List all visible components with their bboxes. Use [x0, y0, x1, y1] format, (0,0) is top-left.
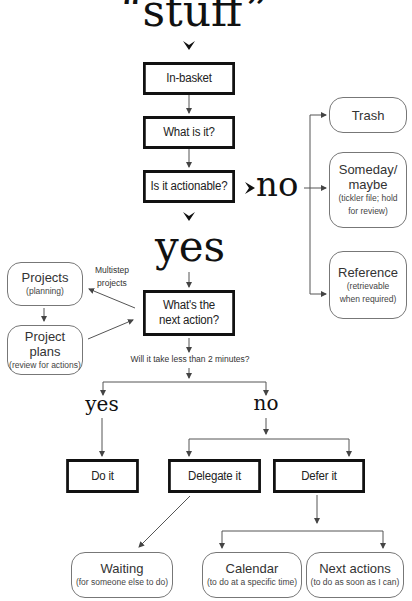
yes-two-min-label: yes [82, 393, 122, 415]
multistep-line-2: projects [92, 277, 132, 290]
delegate-it-box: Delegate it [168, 459, 261, 493]
someday-title-1: Someday/ [339, 162, 398, 177]
do-it-box: Do it [66, 459, 139, 493]
next-actions-box: Next actions (to do as soon as I can) [306, 552, 404, 598]
projects-title: Projects [22, 270, 69, 285]
chevron-down-icon-2 [182, 209, 196, 223]
stuff-title: “stuff” [120, 0, 260, 36]
multistep-label: Multistep projects [92, 264, 132, 290]
projects-box: Projects (planning) [7, 262, 83, 306]
defer-it-label: Defer it [301, 469, 337, 484]
reference-box: Reference (retrievable when required) [329, 251, 407, 319]
project-plans-box: Project plans (review for actions) [7, 325, 83, 375]
someday-note-2: for review) [348, 205, 388, 218]
next-action-box: What's the next action? [143, 290, 235, 336]
next-actions-title: Next actions [319, 561, 391, 576]
next-action-line-1: What's the [163, 298, 215, 313]
in-basket-box: In-basket [143, 62, 235, 95]
calendar-note: (to do at a specific time) [207, 576, 297, 589]
waiting-note: (for someone else to do) [76, 576, 168, 589]
is-actionable-box: Is it actionable? [143, 170, 235, 203]
no-two-min-label: no [246, 392, 286, 414]
someday-title-2: maybe [348, 177, 387, 192]
project-plans-title: Project plans [8, 329, 82, 359]
trash-box: Trash [329, 97, 407, 133]
calendar-title: Calendar [226, 561, 279, 576]
what-is-it-box: What is it? [143, 116, 235, 149]
is-actionable-label: Is it actionable? [151, 179, 228, 194]
delegate-it-label: Delegate it [188, 469, 241, 484]
calendar-box: Calendar (to do at a specific time) [202, 552, 302, 598]
yes-actionable-label: yes [140, 224, 240, 270]
someday-maybe-box: Someday/ maybe (tickler file; hold for r… [329, 152, 407, 228]
waiting-box: Waiting (for someone else to do) [71, 552, 173, 598]
projects-note: (planning) [26, 285, 64, 298]
chevron-down-icon [182, 38, 196, 52]
chevron-right-icon [244, 181, 256, 195]
in-basket-label: In-basket [166, 71, 212, 86]
next-actions-note: (to do as soon as I can) [311, 576, 400, 589]
reference-note-2: when required) [340, 293, 397, 306]
what-is-it-label: What is it? [163, 125, 215, 140]
two-minutes-question: Will it take less than 2 minutes? [100, 354, 280, 364]
do-it-label: Do it [91, 469, 114, 484]
reference-title: Reference [338, 265, 398, 280]
someday-note-1: (tickler file; hold [338, 192, 397, 205]
no-actionable-label: no [256, 164, 298, 204]
waiting-title: Waiting [101, 561, 144, 576]
multistep-line-1: Multistep [92, 264, 132, 277]
defer-it-box: Defer it [273, 459, 365, 493]
reference-note-1: (retrievable [347, 280, 390, 293]
trash-title: Trash [352, 108, 385, 123]
project-plans-note: (review for actions) [9, 359, 81, 372]
next-action-line-2: next action? [159, 313, 219, 328]
